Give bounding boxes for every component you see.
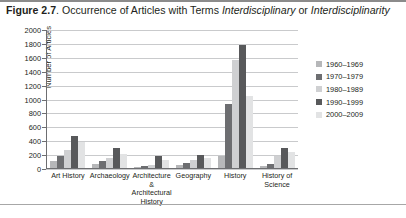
figure-caption: Figure 2.7. Occurrence of Articles with … xyxy=(6,4,402,17)
legend-item[interactable]: 1980–1989 xyxy=(316,83,363,96)
y-axis-tick-label: 400 xyxy=(29,137,41,146)
y-axis-tick-label: 800 xyxy=(29,109,41,118)
legend-swatch-icon xyxy=(316,86,322,92)
y-axis-tick-label: 1400 xyxy=(25,67,41,76)
bar[interactable] xyxy=(71,136,78,168)
bar-group xyxy=(89,30,131,168)
bar[interactable] xyxy=(50,161,57,168)
legend-swatch-icon xyxy=(316,74,322,80)
legend-swatch-icon xyxy=(316,112,322,118)
bar[interactable] xyxy=(190,160,197,168)
bar-group xyxy=(172,30,214,168)
legend-item[interactable]: 1990–1999 xyxy=(316,96,363,109)
bar[interactable] xyxy=(218,156,225,168)
bar[interactable] xyxy=(148,165,155,168)
bar[interactable] xyxy=(92,164,99,168)
caption-term-1: Interdisciplinary xyxy=(222,4,296,16)
y-axis-tick-label: 2000 xyxy=(25,26,41,35)
bar[interactable] xyxy=(141,166,148,168)
legend-item[interactable]: 1970–1979 xyxy=(316,71,363,84)
bar[interactable] xyxy=(155,156,162,168)
bar[interactable] xyxy=(246,96,253,168)
y-axis-tick-label: 1000 xyxy=(25,95,41,104)
bar[interactable] xyxy=(288,152,295,168)
y-axis-tick-label: 1200 xyxy=(25,81,41,90)
x-axis-line xyxy=(46,168,298,169)
bar[interactable] xyxy=(260,166,267,168)
x-axis-category-label: History xyxy=(214,172,256,206)
figure-container: Figure 2.7. Occurrence of Articles with … xyxy=(0,0,406,218)
x-axis-category-label: Art History xyxy=(47,172,89,206)
legend-swatch-icon xyxy=(316,99,322,105)
caption-text-2: or xyxy=(295,4,310,16)
x-axis-labels: Art HistoryArchaeologyArchitecture & Arc… xyxy=(47,172,298,206)
gridline xyxy=(46,169,298,170)
chart-legend: 1960–19691970–19791980–19891990–19992000… xyxy=(316,58,363,121)
bar-group xyxy=(256,30,298,168)
caption-term-2: Interdisciplinarity xyxy=(311,4,390,16)
bar[interactable] xyxy=(225,104,232,168)
caption-text-1: . Occurrence of Articles with Terms xyxy=(56,4,222,16)
y-axis-tick-label: 200 xyxy=(29,151,41,160)
bar[interactable] xyxy=(232,60,239,168)
y-axis-tick-label: 0 xyxy=(37,165,41,174)
bar[interactable] xyxy=(64,150,71,168)
bar[interactable] xyxy=(120,154,127,168)
y-axis-tick xyxy=(42,169,46,170)
y-axis-tick-label: 1600 xyxy=(25,53,41,62)
legend-label: 1960–1969 xyxy=(326,60,363,69)
plot-area: Number of Articles 020040060080010001200… xyxy=(46,30,298,169)
bar[interactable] xyxy=(134,167,141,168)
bar-group xyxy=(214,30,256,168)
bar[interactable] xyxy=(204,158,211,168)
legend-label: 1990–1999 xyxy=(326,98,363,107)
bar-groups xyxy=(47,30,298,168)
y-axis-tick-label: 1800 xyxy=(25,39,41,48)
legend-label: 2000–2009 xyxy=(326,110,363,119)
bar[interactable] xyxy=(183,163,190,168)
legend-label: 1980–1989 xyxy=(326,85,363,94)
bar[interactable] xyxy=(239,45,246,169)
legend-item[interactable]: 1960–1969 xyxy=(316,58,363,71)
page-rule-top xyxy=(0,0,406,2)
x-axis-category-label: Geography xyxy=(172,172,214,206)
figure-number: Figure 2.7 xyxy=(6,4,56,16)
bar[interactable] xyxy=(267,164,274,168)
bar[interactable] xyxy=(57,156,64,168)
bar[interactable] xyxy=(162,160,169,168)
legend-swatch-icon xyxy=(316,61,322,67)
bar[interactable] xyxy=(281,148,288,168)
x-axis-category-label: Architecture & Architectural History xyxy=(131,172,173,206)
bar[interactable] xyxy=(106,158,113,168)
y-axis-tick-label: 600 xyxy=(29,123,41,132)
bar[interactable] xyxy=(274,156,281,168)
page-rule-bottom xyxy=(0,204,406,205)
x-axis-category-label: History of Science xyxy=(256,172,298,206)
bar[interactable] xyxy=(78,142,85,168)
legend-label: 1970–1979 xyxy=(326,72,363,81)
legend-item[interactable]: 2000–2009 xyxy=(316,108,363,121)
bar-group xyxy=(131,30,173,168)
bar[interactable] xyxy=(197,155,204,168)
bar[interactable] xyxy=(99,161,106,168)
x-axis-category-label: Archaeology xyxy=(89,172,131,206)
bar[interactable] xyxy=(113,148,120,168)
bar-group xyxy=(47,30,89,168)
bar[interactable] xyxy=(176,165,183,168)
